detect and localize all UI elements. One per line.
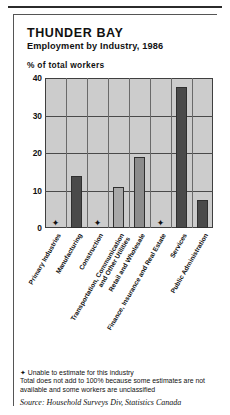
y-tick-label: 40	[33, 73, 42, 83]
y-tick-label: 10	[33, 186, 42, 196]
category-separator	[87, 78, 88, 228]
footnotes: ✦ Unable to estimate for this industry T…	[20, 369, 216, 407]
category-separator	[171, 78, 172, 228]
bar	[134, 157, 145, 228]
category-separator	[66, 78, 67, 228]
bar	[113, 187, 124, 228]
bar	[176, 87, 187, 228]
footnote-unavailable: ✦ Unable to estimate for this industry	[20, 369, 216, 377]
category-separator	[192, 78, 193, 228]
category-separator	[150, 78, 151, 228]
bar	[197, 200, 208, 228]
unavailable-marker: ✦	[52, 220, 60, 227]
page-subtitle: Employment by Industry, 1986	[27, 41, 163, 51]
category-separator	[129, 78, 130, 228]
footnote-total: Total does not add to 100% because some …	[20, 377, 216, 394]
category-separator	[108, 78, 109, 228]
footnote-unavailable-text: Unable to estimate for this industry	[28, 369, 134, 376]
page-title: THUNDER BAY	[27, 26, 123, 40]
unavailable-marker: ✦	[157, 220, 165, 227]
y-tick-label: 20	[33, 148, 42, 158]
y-tick-label: 0	[37, 223, 42, 233]
bar	[71, 176, 82, 229]
y-axis-label: % of total workers	[27, 60, 105, 70]
top-rule	[8, 6, 222, 8]
source-line: Source: Household Surveys Div, Statistic…	[20, 398, 216, 407]
chart-page: THUNDER BAY Employment by Industry, 1986…	[0, 0, 230, 415]
y-tick-label: 30	[33, 111, 42, 121]
unavailable-marker: ✦	[94, 220, 102, 227]
asterisk-icon: ✦	[20, 369, 26, 377]
plot-area: 010203040 ✦✦✦	[45, 78, 213, 228]
